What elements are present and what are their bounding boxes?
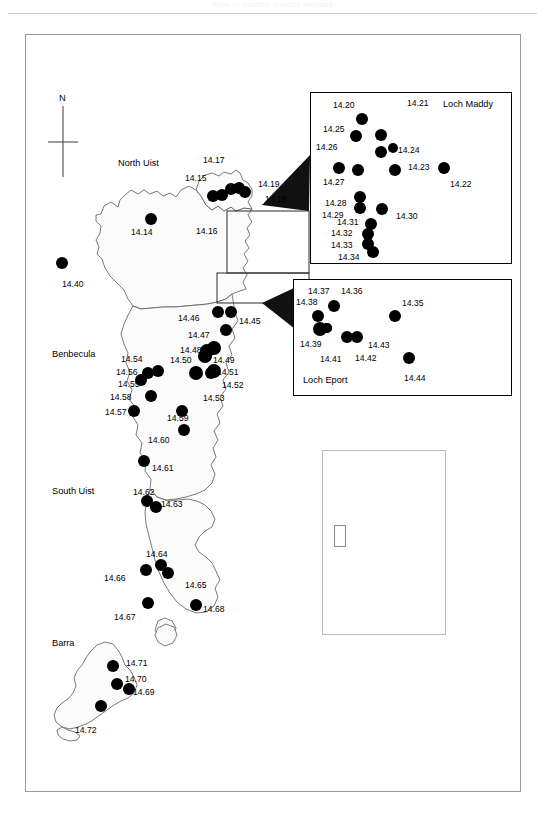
site-dot-14-61[interactable] — [138, 455, 150, 467]
site-dot-14-34[interactable] — [367, 246, 379, 258]
site-label-14-68: 14.68 — [203, 605, 225, 614]
site-label-14-53: 14.53 — [203, 394, 225, 403]
site-dot-14-72[interactable] — [95, 700, 107, 712]
site-label-14-26: 14.26 — [316, 143, 338, 152]
site-dot-14-27b[interactable] — [352, 164, 364, 176]
site-label-14-67: 14.67 — [114, 613, 136, 622]
site-dot-14-26[interactable] — [375, 146, 387, 158]
site-dot-14-19[interactable] — [233, 182, 245, 194]
site-dot-14-57[interactable] — [128, 405, 140, 417]
site-dot-14-63[interactable] — [150, 501, 162, 513]
site-dot-14-41[interactable] — [322, 323, 332, 333]
site-dot-14-66[interactable] — [140, 564, 152, 576]
site-dot-14-70[interactable] — [111, 678, 123, 690]
site-dot-14-38[interactable] — [312, 310, 324, 322]
site-label-14-60: 14.60 — [148, 436, 170, 445]
site-label-14-27: 14.27 — [323, 178, 345, 187]
north-arrow — [48, 106, 78, 177]
region-label-barra: Barra — [52, 638, 74, 648]
site-dot-14-60[interactable] — [178, 424, 190, 436]
site-label-14-54: 14.54 — [121, 355, 143, 364]
site-label-14-64: 14.64 — [146, 550, 168, 559]
site-dot-14-20[interactable] — [356, 113, 368, 125]
region-label-north-uist: North Uist — [118, 158, 159, 168]
site-dot-14-46[interactable] — [212, 306, 224, 318]
site-label-14-66: 14.66 — [104, 574, 126, 583]
site-label-14-28: 14.28 — [325, 199, 347, 208]
site-label-14-39: 14.39 — [300, 340, 322, 349]
site-label-14-21: 14.21 — [407, 99, 429, 108]
site-label-14-25: 14.25 — [323, 125, 345, 134]
site-label-14-24: 14.24 — [398, 146, 420, 155]
site-label-14-34: 14.34 — [338, 253, 360, 262]
site-dot-14-71[interactable] — [107, 660, 119, 672]
site-label-14-40: 14.40 — [62, 280, 84, 289]
site-dot-14-27[interactable] — [333, 162, 345, 174]
site-dot-14-67[interactable] — [142, 597, 154, 609]
site-dot-14-53[interactable] — [189, 366, 203, 380]
site-label-14-20: 14.20 — [333, 101, 355, 110]
site-label-14-52: 14.52 — [222, 381, 244, 390]
site-dot-14-21[interactable] — [375, 129, 387, 141]
site-label-14-23: 14.23 — [408, 163, 430, 172]
site-dot-14-44[interactable] — [403, 352, 415, 364]
site-label-14-41: 14.41 — [320, 355, 342, 364]
site-label-14-65: 14.65 — [185, 581, 207, 590]
site-label-14-35: 14.35 — [402, 299, 424, 308]
site-label-14-63: 14.63 — [161, 500, 183, 509]
site-label-14-61: 14.61 — [152, 464, 174, 473]
site-label-14-19: 14.19 — [258, 180, 280, 189]
site-dot-14-49[interactable] — [200, 344, 214, 358]
site-dot-14-45[interactable] — [225, 306, 237, 318]
site-dot-14-47[interactable] — [220, 324, 232, 336]
site-label-14-38: 14.38 — [296, 298, 318, 307]
north-arrow-label: N — [59, 93, 66, 103]
site-label-14-36: 14.36 — [341, 287, 363, 296]
island-coastlines — [54, 170, 252, 741]
site-label-14-50: 14.50 — [170, 356, 192, 365]
site-label-14-22: 14.22 — [450, 180, 472, 189]
site-dot-14-14[interactable] — [145, 213, 157, 225]
uk-locator-highlight-box — [334, 525, 346, 547]
site-label-14-45: 14.45 — [239, 317, 261, 326]
inset-title-loch-eport: Loch Eport — [303, 375, 347, 385]
site-label-14-56: 14.56 — [116, 368, 138, 377]
site-dot-14-58[interactable] — [145, 390, 157, 402]
site-label-14-71: 14.71 — [126, 659, 148, 668]
site-label-14-17: 14.17 — [203, 156, 225, 165]
site-label-14-16: 14.16 — [196, 227, 218, 236]
site-label-14-46: 14.46 — [178, 314, 200, 323]
site-dot-14-29[interactable] — [354, 202, 366, 214]
site-dot-14-30[interactable] — [376, 203, 388, 215]
site-dot-14-36[interactable] — [328, 300, 340, 312]
site-dot-14-65[interactable] — [162, 567, 174, 579]
site-label-14-15: 14.15 — [185, 174, 207, 183]
site-label-14-72: 14.72 — [75, 726, 97, 735]
site-label-14-69: 14.69 — [133, 688, 155, 697]
site-label-14-57: 14.57 — [105, 408, 127, 417]
inset-title-loch-maddy: Loch Maddy — [443, 99, 493, 109]
site-dot-14-24[interactable] — [388, 143, 398, 153]
site-dot-14-25[interactable] — [350, 130, 362, 142]
site-label-14-14: 14.14 — [131, 228, 153, 237]
region-label-benbecula: Benbecula — [52, 349, 95, 359]
site-dot-14-68[interactable] — [190, 599, 202, 611]
site-dot-14-59[interactable] — [176, 405, 188, 417]
site-label-14-58: 14.58 — [110, 393, 132, 402]
site-dot-14-35[interactable] — [389, 310, 401, 322]
site-label-14-47: 14.47 — [188, 331, 210, 340]
site-label-14-31: 14.31 — [337, 218, 359, 227]
site-label-14-33: 14.33 — [331, 241, 353, 250]
site-dot-14-55[interactable] — [135, 374, 147, 386]
site-label-14-43: 14.43 — [368, 341, 390, 350]
site-dot-14-52[interactable] — [205, 367, 217, 379]
site-dot-14-69[interactable] — [123, 683, 135, 695]
site-label-14-42: 14.42 — [355, 354, 377, 363]
site-label-14-44: 14.44 — [404, 374, 426, 383]
site-label-14-30: 14.30 — [396, 212, 418, 221]
site-dot-14-23[interactable] — [389, 164, 401, 176]
site-dot-14-43[interactable] — [351, 331, 363, 343]
site-dot-14-22[interactable] — [438, 162, 450, 174]
site-dot-14-40[interactable] — [56, 257, 68, 269]
region-label-south-uist: South Uist — [52, 486, 94, 496]
